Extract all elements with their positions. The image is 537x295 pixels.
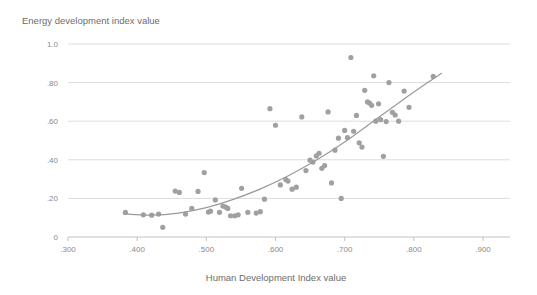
y-tick-label: 1.0 <box>47 40 59 49</box>
data-point <box>376 101 381 106</box>
data-point <box>294 185 299 190</box>
y-axis-title: Energy development index value <box>22 15 160 26</box>
data-point <box>402 88 407 93</box>
data-point <box>339 196 344 201</box>
x-tick-label: .800 <box>406 245 422 254</box>
x-tick-label: .700 <box>337 245 353 254</box>
data-point <box>258 209 263 214</box>
data-point <box>278 182 283 187</box>
data-point <box>239 186 244 191</box>
x-axis-title: Human Development Index value <box>206 272 346 283</box>
data-point <box>217 210 222 215</box>
x-tick-labels: .300.400.500.600.700.800.900 <box>60 245 491 254</box>
data-point <box>267 106 272 111</box>
x-tick-label: .600 <box>268 245 284 254</box>
data-point <box>362 88 367 93</box>
scatter-chart: 0.20.40.60.801.0 .300.400.500.600.700.80… <box>0 0 537 295</box>
y-tick-label: .80 <box>47 79 59 88</box>
y-tick-label: .40 <box>47 156 59 165</box>
data-point <box>202 170 207 175</box>
data-point <box>396 119 401 124</box>
data-point <box>342 128 347 133</box>
trend-line <box>123 73 441 215</box>
data-point <box>208 209 213 214</box>
data-point <box>329 180 334 185</box>
data-point <box>299 114 304 119</box>
data-point <box>285 178 290 183</box>
gridlines <box>68 44 510 237</box>
plot-area: 0.20.40.60.801.0 .300.400.500.600.700.80… <box>0 0 537 295</box>
x-tick-label: .900 <box>475 245 491 254</box>
y-tick-labels: 0.20.40.60.801.0 <box>47 40 59 242</box>
data-point <box>316 151 321 156</box>
data-point <box>225 206 230 211</box>
data-point <box>406 105 411 110</box>
data-point <box>348 55 353 60</box>
data-point <box>245 210 250 215</box>
x-tick-label: .300 <box>60 245 76 254</box>
data-point <box>386 80 391 85</box>
axis-ticks <box>68 237 483 241</box>
y-tick-label: .60 <box>47 117 59 126</box>
data-point <box>160 225 165 230</box>
data-point <box>213 197 218 202</box>
data-point <box>381 154 386 159</box>
data-point <box>273 123 278 128</box>
data-point <box>393 112 398 117</box>
x-tick-label: .400 <box>129 245 145 254</box>
data-point <box>236 212 241 217</box>
data-point <box>359 144 364 149</box>
y-tick-label: .20 <box>47 194 59 203</box>
data-point <box>369 103 374 108</box>
data-point <box>303 168 308 173</box>
data-point <box>325 109 330 114</box>
data-point <box>351 129 356 134</box>
y-tick-label: 0 <box>54 233 59 242</box>
data-point <box>177 190 182 195</box>
data-point <box>262 197 267 202</box>
data-point <box>156 211 161 216</box>
data-point <box>384 119 389 124</box>
data-point <box>322 163 327 168</box>
data-point <box>336 136 341 141</box>
x-tick-label: .500 <box>199 245 215 254</box>
data-point <box>371 73 376 78</box>
data-point <box>195 189 200 194</box>
data-point <box>357 140 362 145</box>
data-point <box>354 113 359 118</box>
data-points <box>123 55 436 230</box>
